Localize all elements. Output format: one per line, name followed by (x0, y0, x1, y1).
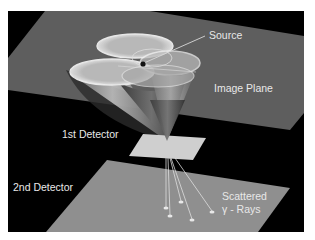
source-point (140, 61, 145, 66)
label-second-detector: 2nd Detector (13, 181, 74, 193)
label-gamma-rays: γ - Rays (222, 203, 261, 215)
cone-rim-front (122, 65, 194, 87)
compton-camera-diagram: Source Image Plane 1st Detector 2nd Dete… (0, 0, 315, 240)
label-first-detector: 1st Detector (62, 128, 119, 140)
label-source: Source (209, 29, 242, 41)
diagram-canvas: Source Image Plane 1st Detector 2nd Dete… (0, 0, 315, 240)
label-image-plane: Image Plane (214, 82, 273, 94)
label-scattered: Scattered (222, 190, 267, 202)
